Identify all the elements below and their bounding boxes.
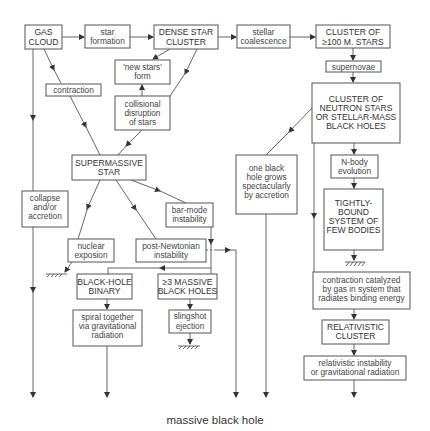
node-label: instability: [172, 214, 207, 224]
node-collisional-disruption: collisional disruption of stars: [115, 96, 170, 130]
node-label: coalescence: [240, 36, 287, 46]
node-label: CLUSTER: [335, 331, 375, 341]
node-dense-star-cluster: DENSE STAR CLUSTER: [154, 25, 218, 49]
node-stellar-coalescence: stellar coalescence: [237, 25, 290, 48]
node-post-newtonian: post-Newtonian instability: [136, 239, 206, 262]
node-bh-binary: BLACK-HOLE BINARY: [77, 274, 132, 299]
node-gas-cloud: GAS CLOUD: [25, 25, 62, 49]
node-slingshot: slingshot ejection: [169, 310, 211, 333]
node-supernovae: supernovae: [326, 61, 381, 72]
node-n-body: N-body evolution: [331, 155, 378, 178]
node-label: ≥100 M. STARS: [322, 37, 384, 47]
node-relativistic-cluster: RELATIVISTIC CLUSTER: [322, 320, 389, 344]
node-label: FEW BODIES: [327, 225, 381, 235]
node-label: exposion: [74, 250, 108, 260]
node-label: radiation: [92, 330, 124, 340]
node-label: BLACK HOLES: [326, 121, 386, 131]
node-bar-mode: bar-mode instability: [166, 203, 213, 227]
node-label: STAR: [98, 167, 120, 177]
node-contraction-catalyzed: contraction catalyzed by gas in system t…: [313, 272, 410, 309]
node-label: GAS: [34, 27, 52, 37]
node-label: BINARY: [89, 286, 121, 296]
node-label: radiates binding energy: [318, 293, 405, 303]
node-cluster-100: CLUSTER OF ≥100 M. STARS: [316, 25, 390, 48]
node-label: BLACK HOLES: [158, 286, 218, 296]
node-label: slingshot: [174, 311, 207, 321]
node-supermassive-star: SUPERMASSIVE STAR: [72, 155, 146, 180]
node-new-stars: 'new stars' form: [115, 60, 170, 84]
node-label: by accretion: [244, 190, 289, 200]
node-contraction: contraction: [46, 84, 101, 96]
node-label: or gravitational radiation: [311, 367, 400, 377]
node-label: form: [134, 71, 151, 81]
node-one-black-hole: one black hole grows spectacularly by ac…: [236, 155, 297, 214]
node-label: evolution: [338, 166, 372, 176]
flowchart-canvas: GAS CLOUD star formation DENSE STAR CLUS…: [0, 0, 430, 431]
node-label: CLOUD: [28, 37, 58, 47]
node-collapse: collapse and/or accretion: [22, 191, 68, 227]
node-label: instability: [154, 250, 189, 260]
node-3-massive: ≥3 MASSIVE BLACK HOLES: [158, 274, 218, 299]
caption: massive black hole: [166, 414, 263, 426]
node-label: CLUSTER: [166, 37, 206, 47]
node-label: CLUSTER OF: [326, 27, 380, 37]
node-label: supernovae: [332, 62, 376, 72]
node-label: ejection: [176, 321, 205, 331]
node-spiral: spiral together via gravitational radiat…: [73, 310, 142, 346]
node-label: accretion: [28, 211, 62, 221]
node-neutron-cluster: CLUSTER OF NEUTRON STARS OR STELLAR-MASS…: [312, 83, 400, 143]
node-label: DENSE STAR: [159, 27, 213, 37]
node-label: of stars: [129, 117, 156, 127]
node-tightly-bound: TIGHTLY- BOUND SYSTEM OF FEW BODIES: [324, 189, 383, 250]
node-label: contraction: [53, 85, 94, 95]
node-nuclear-exposion: nuclear exposion: [68, 239, 114, 262]
node-label: formation: [90, 36, 125, 46]
node-relativistic-instability: relativistic instability or gravitationa…: [304, 356, 406, 380]
node-star-formation: star formation: [85, 25, 130, 48]
